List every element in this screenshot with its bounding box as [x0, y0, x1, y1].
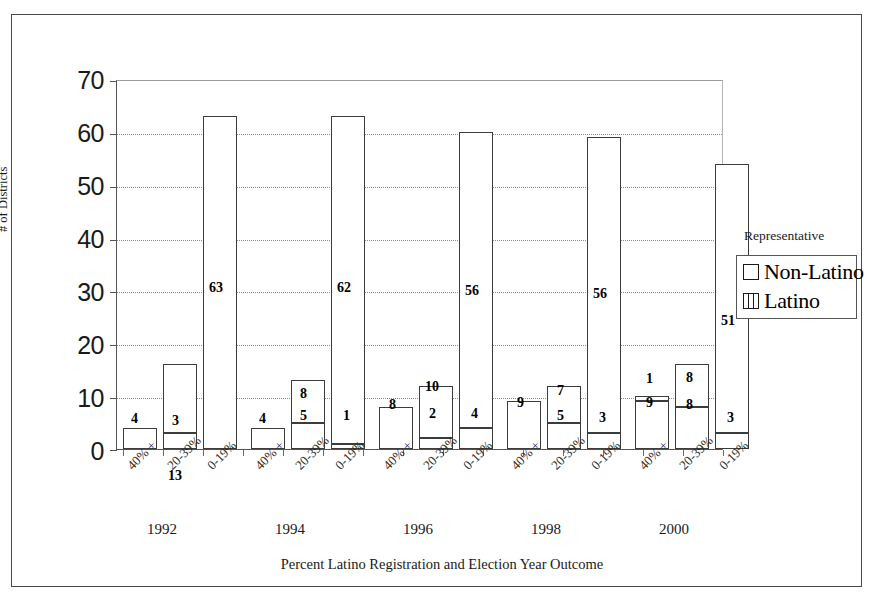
- bar-label-1996-0to19-latino: 4: [471, 407, 478, 421]
- legend-box: Non-Latino Latino: [736, 255, 857, 319]
- y-tick-label-30: 30: [56, 280, 104, 305]
- bar-label-1996-20to39-latino: 2: [429, 407, 436, 421]
- bar-label-2000-40plus-non-latino: 1: [646, 372, 653, 386]
- group-label-1992: 1992: [102, 521, 222, 538]
- legend-item-latino[interactable]: Latino: [743, 287, 820, 315]
- bar-label-1994-0to19-non-latino: 62: [337, 281, 351, 295]
- group-label-1996: 1996: [358, 521, 478, 538]
- y-tick-label-70: 70: [56, 68, 104, 93]
- y-tick-label-50: 50: [56, 174, 104, 199]
- bar-label-1994-40plus-latino: 4: [259, 412, 266, 426]
- bar-segment-non-latino[interactable]: [459, 132, 493, 428]
- x-tick-mark: [163, 450, 164, 456]
- bar-segment-non-latino[interactable]: [547, 386, 581, 423]
- bar-label-1994-20to39-non-latino: 8: [300, 387, 307, 401]
- x-tick-mark: [243, 450, 244, 456]
- legend-title: Representative: [744, 228, 824, 244]
- bar-label-1992-20to39-latino: 3: [172, 414, 179, 428]
- y-axis-title: # of Districts: [0, 167, 11, 232]
- y-tick-mark-30: [110, 292, 117, 293]
- bar-label-1996-40plus-latino: 8: [389, 398, 396, 412]
- y-tick-label-60: 60: [56, 121, 104, 146]
- y-tick-label-40: 40: [56, 227, 104, 252]
- y-tick-mark-0: [110, 450, 117, 451]
- y-tick-mark-40: [110, 240, 117, 241]
- y-tick-label-20: 20: [56, 333, 104, 358]
- bar-label-2000-0to19-latino: 3: [727, 411, 734, 425]
- y-tick-mark-70: [110, 81, 117, 82]
- bar-segment-non-latino[interactable]: [163, 364, 197, 433]
- group-label-1994: 1994: [230, 521, 350, 538]
- legend-swatch-latino-icon: [743, 293, 759, 309]
- y-tick-mark-20: [110, 345, 117, 346]
- bar-label-2000-20to39-latino: 8: [686, 398, 693, 412]
- y-tick-mark-60: [110, 134, 117, 135]
- group-label-1998: 1998: [486, 521, 606, 538]
- bar-label-1996-20to39-non-latino: 10: [425, 380, 439, 394]
- bar-label-1998-0to19-latino: 3: [599, 411, 606, 425]
- bar-label-2000-0to19-non-latino: 51: [721, 314, 735, 328]
- y-tick-label-10: 10: [56, 386, 104, 411]
- bar-label-1998-20to39-non-latino: 7: [557, 384, 564, 398]
- x-axis-title: Percent Latino Registration and Election…: [0, 556, 884, 573]
- y-tick-mark-50: [110, 187, 117, 188]
- legend-label-non-latino: Non-Latino: [764, 261, 864, 283]
- bar-label-1992-0to19-non-latino: 63: [209, 281, 223, 295]
- bar-label-2000-20to39-non-latino: 8: [686, 371, 693, 385]
- bar-label-1994-0to19-latino: 1: [343, 409, 350, 423]
- bar-label-1998-0to19-non-latino: 56: [593, 287, 607, 301]
- bar-label-1998-20to39-latino: 5: [557, 409, 564, 423]
- y-tick-label-0: 0: [56, 439, 104, 464]
- bar-label-2000-40plus-latino: 9: [646, 396, 653, 410]
- bar-label-1994-20to39-latino: 5: [300, 409, 307, 423]
- legend-item-non-latino[interactable]: Non-Latino: [743, 258, 864, 286]
- chart-figure: # of Districts 70 60 50 40 30 20 10 0 4: [0, 0, 884, 609]
- x-tick-mark: [203, 450, 204, 456]
- legend-label-latino: Latino: [764, 290, 820, 312]
- bar-label-1992-40plus-latino: 4: [131, 412, 138, 426]
- bar-label-1996-0to19-non-latino: 56: [465, 284, 479, 298]
- group-label-2000: 2000: [614, 521, 734, 538]
- bar-label-1998-40plus-latino: 9: [517, 396, 524, 410]
- legend-swatch-non-latino-icon: [743, 264, 759, 280]
- y-tick-mark-10: [110, 398, 117, 399]
- x-tick-mark: [123, 450, 124, 456]
- plot-area: 4 3 13 63 4 5 8 1 62: [116, 80, 723, 450]
- bar-segment-non-latino[interactable]: [291, 380, 325, 422]
